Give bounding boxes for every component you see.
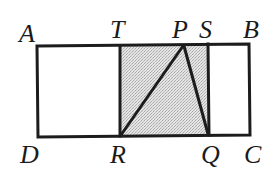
- point-label-R: R: [109, 140, 126, 169]
- segment-SQ: [208, 44, 209, 135]
- point-label-D: D: [19, 140, 39, 169]
- point-label-A: A: [17, 19, 35, 48]
- point-label-C: C: [244, 140, 262, 169]
- geometry-diagram: A T P S B D R Q C: [0, 0, 276, 174]
- point-label-S: S: [199, 15, 212, 44]
- point-label-B: B: [243, 15, 259, 44]
- point-label-Q: Q: [201, 140, 220, 169]
- point-label-T: T: [110, 15, 126, 44]
- point-label-P: P: [171, 15, 188, 44]
